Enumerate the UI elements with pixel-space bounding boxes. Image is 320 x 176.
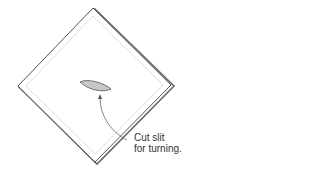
annotation-line-2: for turning. — [134, 143, 182, 154]
annotation-line-1: Cut slit — [134, 132, 182, 143]
annotation-label: Cut slit for turning. — [134, 132, 182, 154]
